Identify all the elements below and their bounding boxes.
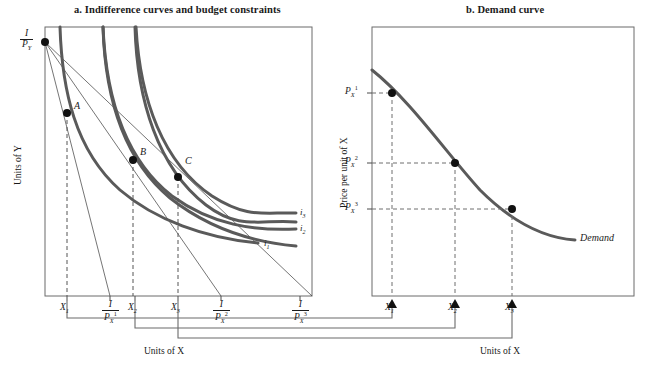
panel-a-y-axis-text: Units of Y: [13, 145, 23, 185]
indifference-curve-i3: [135, 27, 296, 222]
ytick-label-PX2: PX2: [345, 155, 358, 168]
xtick-label-a-X2: X2: [128, 303, 137, 314]
panel-b-y-axis-label: Price per unit of X: [340, 137, 350, 208]
xtick-label-b-X1: X1: [385, 303, 394, 314]
panel-b-x-axis-label: Units of X: [480, 347, 520, 357]
xtick-label-a-IPX1: I PX1: [102, 300, 119, 324]
xtick-label-a-IPX3: I PX3: [292, 300, 309, 324]
panel-b-y-ticks: [367, 93, 372, 209]
fraction-denominator: PY: [20, 39, 33, 51]
xtick-label-b-X3: X3: [505, 303, 514, 314]
point-label-C: C: [185, 156, 192, 166]
point-A: [63, 109, 71, 117]
point-label-B: B: [140, 147, 146, 157]
panel-a-y-axis-label: Units of Y: [14, 145, 24, 185]
panel-a-x-axis-label: Units of X: [144, 347, 184, 357]
panel-b-points: [388, 89, 516, 213]
panel-a-y-intercept-label: I PY: [20, 29, 33, 51]
fraction-I-over-PY: I PY: [20, 29, 33, 51]
ytick-label-PX1: PX1: [345, 85, 358, 98]
curve-label-i2: i2: [300, 224, 305, 236]
panel-b-y-axis-text: Price per unit of X: [339, 137, 349, 208]
demand-point-3: [508, 205, 516, 213]
panel-a-title: a. Indifference curves and budget constr…: [74, 5, 281, 16]
point-income-intercept: [41, 38, 49, 46]
figure-root: a. Indifference curves and budget constr…: [0, 0, 645, 365]
point-label-A: A: [74, 101, 80, 111]
demand-point-2: [451, 159, 459, 167]
panel-b-frame: [372, 27, 634, 296]
xtick-label-a-IPX2: I PX2: [213, 300, 230, 324]
xtick-label-b-X2: X2: [448, 303, 457, 314]
ytick-label-PX3: PX3: [345, 201, 358, 214]
panel-b-guide-lines: [372, 93, 512, 296]
panel-b-demand-curve: [372, 70, 575, 240]
point-C: [174, 173, 182, 181]
demand-point-1: [388, 89, 396, 97]
panel-b-title: b. Demand curve: [466, 5, 544, 16]
fraction-I-over-PX2: I PX2: [213, 300, 230, 324]
indifference-curve-i1: [60, 27, 258, 243]
fraction-I-over-PX3: I PX3: [292, 300, 309, 324]
curve-label-i3: i3: [300, 208, 305, 220]
fraction-numerator: I: [20, 29, 33, 39]
demand-curve-path: [372, 70, 575, 240]
xtick-label-a-X3: X3: [171, 303, 180, 314]
demand-curve-label: Demand: [580, 233, 614, 243]
point-B: [129, 156, 137, 164]
curve-label-i1: i1: [264, 239, 269, 251]
fraction-I-over-PX1: I PX1: [102, 300, 119, 324]
xtick-label-a-X1: X1: [60, 303, 69, 314]
figure-vector-layer: [0, 0, 645, 365]
